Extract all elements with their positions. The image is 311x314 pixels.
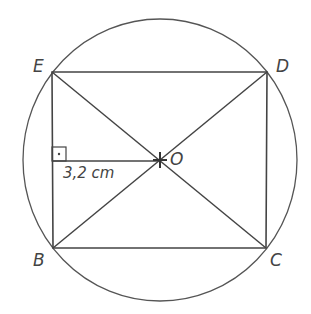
vertex-label-e: E	[33, 56, 44, 76]
vertex-label-b: B	[33, 250, 45, 270]
right-angle-dot	[58, 153, 60, 155]
figure-drawing	[0, 0, 311, 314]
vertex-label-c: C	[270, 250, 282, 270]
geometry-figure: E D B C O 3,2 cm	[0, 0, 311, 314]
measurement-label: 3,2 cm	[63, 164, 114, 182]
center-label-o: O	[170, 149, 183, 169]
vertex-label-d: D	[276, 56, 289, 76]
